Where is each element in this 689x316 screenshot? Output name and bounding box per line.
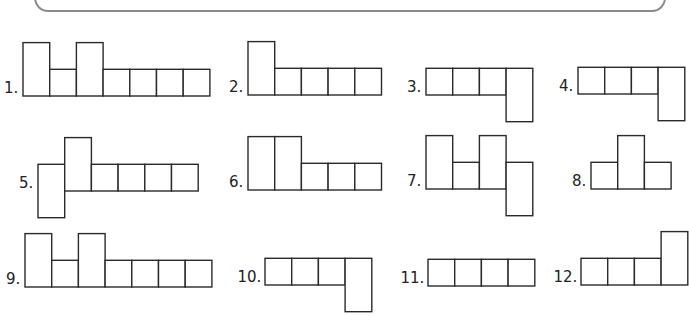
figure-cell — [355, 68, 382, 95]
figure-cell — [355, 163, 382, 190]
figure-shape — [23, 96, 24, 97]
figure-shape — [265, 285, 266, 286]
figure-label: 7. — [407, 174, 421, 189]
figure-cell — [157, 69, 184, 96]
figure-cell — [428, 259, 455, 286]
figure-shape — [248, 190, 249, 191]
figure-cell — [631, 67, 658, 94]
figure-label: 9. — [6, 272, 20, 287]
figure-cell — [248, 137, 275, 190]
figure-cell — [275, 68, 302, 95]
figure-cell — [248, 42, 275, 95]
figure-cell — [426, 136, 453, 189]
figure-shape — [578, 94, 579, 95]
figure-cell — [644, 162, 671, 189]
figure-shape — [591, 189, 592, 190]
figure-cell — [52, 260, 79, 287]
figure-cell — [275, 137, 302, 190]
figure-cell — [506, 68, 533, 121]
figure-cell — [345, 258, 372, 311]
figure-cell — [172, 164, 199, 191]
figure-cell — [301, 68, 328, 95]
figure-shape — [248, 95, 249, 96]
figure-cell — [118, 164, 145, 191]
figure-cell — [453, 68, 480, 95]
figure-cell — [328, 68, 355, 95]
figure-cell — [578, 67, 605, 94]
figure-cell — [38, 164, 65, 217]
figure-cell — [481, 259, 508, 286]
figure-cell — [453, 162, 480, 189]
figure-cell — [455, 259, 482, 286]
figure-cell — [103, 69, 130, 96]
figure-label: 1. — [4, 81, 18, 96]
figure-cell — [23, 43, 50, 96]
figure-label: 12. — [554, 270, 578, 285]
figure-cell — [328, 163, 355, 190]
figure-cell — [591, 162, 618, 189]
figure-cell — [50, 69, 77, 96]
figure-cell — [661, 232, 688, 285]
figure-cell — [76, 43, 103, 96]
figure-cell — [479, 68, 506, 95]
figure-label: 11. — [401, 271, 425, 286]
figure-cell — [301, 163, 328, 190]
figure-cell — [25, 234, 52, 287]
figure-cell — [91, 164, 118, 191]
figure-cell — [608, 258, 635, 285]
figure-cell — [292, 258, 319, 285]
figure-shape — [581, 285, 582, 286]
figure-cell — [185, 260, 212, 287]
figure-cell — [426, 68, 453, 95]
figure-cell — [183, 69, 210, 96]
figure-cell — [581, 258, 608, 285]
figure-cell — [634, 258, 661, 285]
figure-cell — [105, 260, 132, 287]
figure-cell — [265, 258, 292, 285]
figure-label: 5. — [19, 176, 33, 191]
figure-shape — [25, 287, 26, 288]
figure-label: 10. — [238, 270, 262, 285]
figure-cell — [132, 260, 159, 287]
figure-label: 3. — [407, 80, 421, 95]
figure-cell — [508, 259, 535, 286]
figure-cell — [506, 162, 533, 215]
figure-cell — [130, 69, 157, 96]
figure-shape — [428, 286, 429, 287]
figure-cell — [658, 67, 685, 120]
figure-cell — [65, 138, 92, 191]
figure-shape — [38, 191, 39, 192]
figure-cell — [159, 260, 186, 287]
figure-label: 6. — [229, 175, 243, 190]
figure-cell — [78, 234, 105, 287]
figure-shape — [426, 189, 427, 190]
figure-cell — [479, 136, 506, 189]
figure-cell — [145, 164, 172, 191]
figure-cell — [618, 136, 645, 189]
figure-label: 8. — [572, 174, 586, 189]
figure-cell — [318, 258, 345, 285]
figure-label: 4. — [559, 79, 573, 94]
figure-label: 2. — [229, 80, 243, 95]
instructions-frame — [34, 0, 666, 12]
figure-cell — [605, 67, 632, 94]
figure-shape — [426, 95, 427, 96]
